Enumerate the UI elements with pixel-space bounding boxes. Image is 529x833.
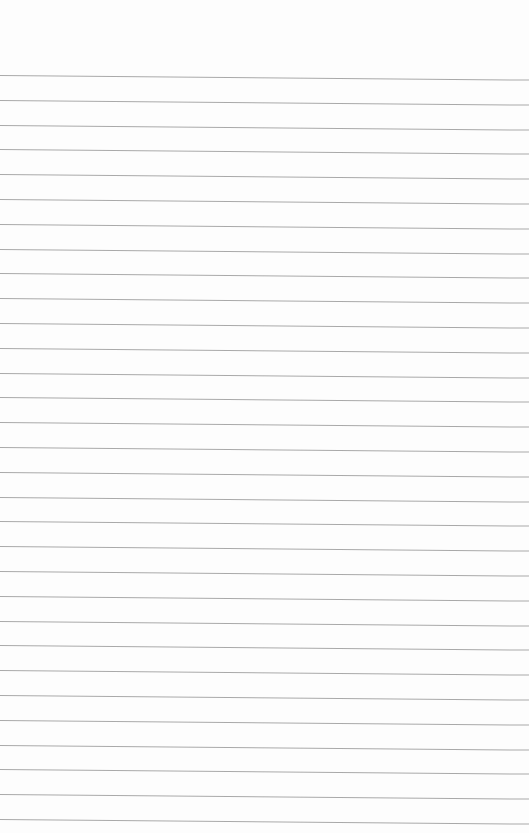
ruled-line [0, 348, 529, 354]
ruled-line [0, 199, 529, 205]
ruled-line [0, 422, 529, 428]
ruled-line [0, 546, 529, 552]
ruled-line [0, 273, 529, 279]
ruled-line [0, 174, 529, 180]
ruled-line [0, 224, 529, 230]
ruled-line [0, 645, 529, 651]
ruled-line [0, 75, 529, 81]
ruled-line [0, 670, 529, 676]
ruled-line [0, 298, 529, 304]
ruled-line [0, 497, 529, 503]
ruled-line [0, 621, 529, 627]
ruled-line [0, 571, 529, 577]
ruled-line [0, 323, 529, 329]
ruled-line [0, 373, 529, 379]
ruled-line [0, 596, 529, 602]
ruled-line [0, 100, 529, 106]
ruled-line [0, 521, 529, 527]
ruled-line [0, 794, 529, 800]
ruled-line [0, 447, 529, 453]
ruled-line [0, 819, 529, 825]
ruled-line [0, 695, 529, 701]
ruled-line [0, 125, 529, 131]
ruled-line [0, 745, 529, 751]
ruled-line [0, 472, 529, 478]
ruled-line [0, 149, 529, 155]
ruled-line [0, 397, 529, 403]
ruled-line [0, 249, 529, 255]
ruled-line [0, 720, 529, 726]
ruled-line [0, 769, 529, 775]
